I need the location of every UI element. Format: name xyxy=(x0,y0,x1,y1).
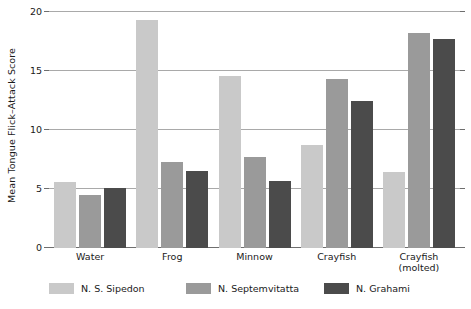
y-axis-title-text: Mean Tongue Flick–Attack Score xyxy=(6,47,17,202)
legend-item[interactable]: N. Grahami xyxy=(324,281,410,295)
chart-legend: N. S. SipedonN. SeptemvitattaN. Grahami xyxy=(49,281,460,297)
x-axis-label: Crayfish xyxy=(296,251,378,262)
legend-label: N. S. Sipedon xyxy=(81,283,145,294)
y-tick-mark-right-0 xyxy=(460,247,465,248)
x-axis-labels: WaterFrogMinnowCrayfishCrayfish(molted) xyxy=(49,251,460,279)
y-tick-label-10: 10 xyxy=(30,124,42,135)
x-axis-label: Frog xyxy=(131,251,213,262)
bar xyxy=(433,39,455,248)
x-axis-label-line: Minnow xyxy=(213,251,295,262)
x-axis-label-line: Water xyxy=(49,251,131,262)
legend-item[interactable]: N. S. Sipedon xyxy=(49,281,145,295)
x-axis-label: Water xyxy=(49,251,131,262)
x-axis-label: Minnow xyxy=(213,251,295,262)
legend-item[interactable]: N. Septemvitatta xyxy=(186,281,299,295)
legend-swatch xyxy=(49,283,74,294)
bar xyxy=(326,79,348,248)
bar xyxy=(136,20,158,248)
bar-chart: Mean Tongue Flick–Attack Score 05101520 … xyxy=(0,0,471,309)
x-axis-label-line: Crayfish xyxy=(296,251,378,262)
bar xyxy=(54,182,76,248)
plot-area: 05101520 xyxy=(49,12,460,248)
y-tick-label-0: 0 xyxy=(36,242,42,253)
bar xyxy=(186,171,208,248)
bar-group xyxy=(383,12,455,248)
bar xyxy=(79,195,101,248)
bar xyxy=(104,188,126,248)
bar-group xyxy=(136,12,208,248)
y-tick-label-5: 5 xyxy=(36,183,42,194)
y-tick-label-20: 20 xyxy=(30,6,42,17)
legend-label: N. Septemvitatta xyxy=(218,283,299,294)
bar xyxy=(244,157,266,248)
y-tick-label-15: 15 xyxy=(30,65,42,76)
y-tick-mark-right-20 xyxy=(460,11,465,12)
y-tick-mark-right-15 xyxy=(460,70,465,71)
bar xyxy=(301,145,323,248)
bar xyxy=(351,101,373,249)
x-axis-label-line: (molted) xyxy=(378,262,460,273)
bar xyxy=(383,172,405,248)
bar xyxy=(269,181,291,248)
bar xyxy=(408,33,430,248)
legend-label: N. Grahami xyxy=(356,283,410,294)
x-axis-label: Crayfish(molted) xyxy=(378,251,460,273)
y-tick-mark-right-10 xyxy=(460,129,465,130)
bar-group xyxy=(301,12,373,248)
x-axis-label-line: Crayfish xyxy=(378,251,460,262)
x-axis-label-line: Frog xyxy=(131,251,213,262)
bar-group xyxy=(54,12,126,248)
legend-swatch xyxy=(324,283,349,294)
bar xyxy=(219,76,241,248)
bars-layer xyxy=(49,12,460,248)
bar xyxy=(161,162,183,248)
legend-swatch xyxy=(186,283,211,294)
y-tick-mark-right-5 xyxy=(460,188,465,189)
bar-group xyxy=(219,12,291,248)
y-axis-title: Mean Tongue Flick–Attack Score xyxy=(0,0,22,250)
